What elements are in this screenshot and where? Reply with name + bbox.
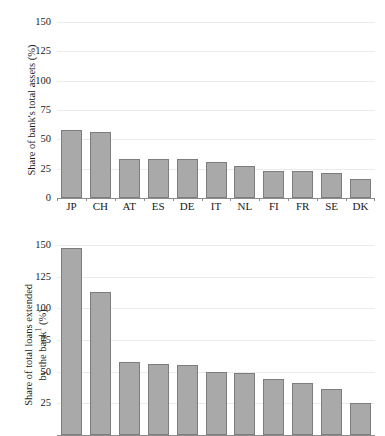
bar [206,162,227,198]
bar [119,159,140,198]
chart-panel-bottom: Share of total loans extended by the ban… [0,228,385,400]
bar [119,362,140,435]
x-tick-label: CH [93,201,108,212]
bar [90,292,111,435]
x-tick-label: FI [269,201,279,212]
bar [321,173,342,198]
bar [61,130,82,198]
x-tick-label: DE [180,201,195,212]
x-tick-label: ES [152,201,165,212]
y-tick-label: 75 [41,335,52,346]
x-tick-label: NL [238,201,253,212]
bar [148,159,169,198]
y-tick-label: 0 [46,193,51,204]
y-axis-title-bottom-line1: Share of total loans extended [23,284,34,406]
bar [350,403,371,435]
x-tick-label: JP [66,201,76,212]
axis-baseline: 0 [57,198,375,199]
x-tick-label: DK [353,201,369,212]
bar [61,248,82,435]
y-tick-label: 25 [41,163,52,174]
x-tick-label: IT [211,201,221,212]
bar [292,383,313,435]
bar [177,365,198,435]
x-tick-label: FR [296,201,309,212]
bar [234,373,255,435]
y-tick-label: 150 [35,17,51,28]
chart-panel-top: Share of bank's total assets (%) 0255075… [0,0,385,228]
bar [177,159,198,198]
x-axis-labels-top: JPCHATESDEITNLFIFRSEDK [57,201,375,219]
y-tick-label: 75 [41,105,52,116]
bar [234,166,255,198]
x-tick-label: AT [123,201,136,212]
y-tick-label: 125 [35,271,51,282]
bar [90,132,111,198]
x-tick-label: SE [325,201,338,212]
plot-area-top: 0255075100125150 [57,22,375,198]
bar [206,372,227,435]
y-tick-label: 50 [41,134,52,145]
y-tick-label: 150 [35,240,51,251]
bar [263,171,284,198]
bar [321,389,342,435]
bar [148,364,169,435]
bar-series-bottom [57,245,375,435]
y-tick-label: 125 [35,46,51,57]
bar-series-top [57,22,375,198]
y-tick-label: 100 [35,75,51,86]
y-tick-label: 25 [41,398,52,409]
bar [350,179,371,198]
y-tick-label: 100 [35,303,51,314]
plot-area-bottom: 255075100125150 [57,245,375,435]
bar [263,379,284,435]
footnote-marker: 1 [34,328,43,332]
y-tick-label: 50 [41,366,52,377]
bar [292,171,313,198]
